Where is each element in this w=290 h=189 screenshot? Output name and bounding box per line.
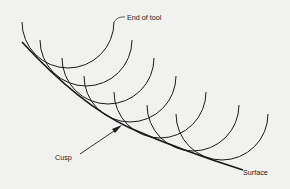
cusp-label: Cusp [55, 153, 72, 162]
cusp-arrow-line [80, 129, 117, 154]
tool-arcs [22, 22, 268, 160]
tool-arc [40, 40, 132, 86]
tool-cusp-diagram: End of tool Cusp Surface [0, 0, 290, 189]
surface-curve [22, 42, 243, 170]
end-of-tool-label: End of tool [127, 13, 162, 22]
tool-arc [176, 114, 268, 160]
end-of-tool-leader [114, 17, 125, 22]
tool-arc [147, 105, 239, 151]
surface-label: Surface [243, 168, 268, 177]
tool-arc [114, 92, 206, 138]
tool-arc [22, 22, 114, 68]
